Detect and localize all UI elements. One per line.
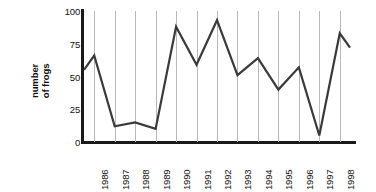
x-axis-tick-1986: 1986 [99, 144, 110, 190]
y-axis-tick-75: 75 [54, 38, 80, 49]
x-axis-tick-1998: 1998 [345, 144, 356, 190]
plot-area [84, 11, 350, 142]
y-axis-tick-100: 100 [54, 6, 80, 17]
y-axis-tick-labels: 0255075100 [54, 0, 80, 192]
y-axis-tick-50: 50 [54, 71, 80, 82]
x-axis-tick-1990: 1990 [181, 144, 192, 190]
x-axis-tick-1988: 1988 [140, 144, 151, 190]
y-axis-tick-0: 0 [54, 137, 80, 148]
x-axis-tick-1996: 1996 [304, 144, 315, 190]
x-axis-tick-labels: 1986198719881989199019911992199319941995… [84, 146, 350, 192]
x-axis-tick-1992: 1992 [222, 144, 233, 190]
y-axis-title-line1: number [29, 64, 40, 98]
x-axis-tick-1991: 1991 [202, 144, 213, 190]
x-axis-tick-1994: 1994 [263, 144, 274, 190]
x-axis-tick-1997: 1997 [324, 144, 335, 190]
data-series-line [84, 11, 350, 142]
y-axis-tick-25: 25 [54, 104, 80, 115]
x-axis-tick-1995: 1995 [283, 144, 294, 190]
frog-population-line-chart: number of frogs 0255075100 1986198719881… [0, 0, 376, 192]
x-axis-tick-1993: 1993 [242, 144, 253, 190]
x-axis-tick-1987: 1987 [120, 144, 131, 190]
y-axis-title-line2: of frogs [40, 64, 51, 99]
x-axis-tick-1989: 1989 [161, 144, 172, 190]
